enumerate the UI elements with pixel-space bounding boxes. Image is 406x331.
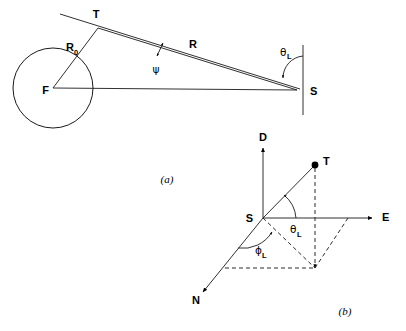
dashed-ground-projection (263, 218, 315, 268)
label-theta-l-panel-b-main: θ (290, 223, 296, 235)
label-axis-d: D (259, 131, 267, 143)
panel-b-caption: (b) (339, 305, 352, 318)
label-tangent-point-t: T (93, 8, 100, 20)
label-phi-l-panel-b: ϕ L (255, 244, 267, 260)
figure-root: T F S R 0 R ψ θ L (a) (0, 0, 406, 331)
dashed-east-component (315, 218, 348, 268)
label-phi-l-panel-b-main: ϕ (255, 244, 262, 256)
label-target-t: T (323, 155, 330, 167)
label-range-r: R (189, 38, 197, 50)
label-theta-l-panel-a-main: θ (280, 46, 286, 58)
geometry-figure: T F S R 0 R ψ θ L (a) (0, 0, 406, 331)
label-station-s: S (310, 85, 317, 97)
label-origin-s: S (246, 212, 253, 224)
label-theta-l-panel-a-subscript: L (287, 52, 292, 61)
label-center-f: F (42, 84, 49, 96)
theta-l-arc-panel-b (284, 195, 296, 218)
panel-a-group: T F S R 0 R ψ θ L (a) (13, 8, 317, 186)
label-theta-l-panel-b-subscript: L (297, 230, 302, 239)
line-of-sight-s-to-t (263, 165, 315, 218)
label-psi-angle: ψ (153, 63, 160, 75)
label-axis-n: N (192, 294, 200, 306)
panel-b-group: D E N S T θ L ϕ L (b) (192, 131, 389, 318)
axis-n-north (203, 218, 263, 292)
label-theta-l-panel-b: θ L (290, 223, 302, 239)
label-phi-l-panel-b-subscript: L (262, 251, 267, 260)
label-theta-l-panel-a: θ L (280, 46, 292, 61)
theta-l-arc-panel-a (283, 56, 303, 78)
label-radius-r0: R 0 (66, 41, 78, 57)
label-radius-r0-main: R (66, 41, 74, 53)
baseline-f-to-s (53, 88, 297, 90)
target-point-t (312, 162, 319, 169)
tangent-line (60, 14, 300, 89)
label-axis-e: E (382, 211, 389, 223)
panel-a-caption: (a) (161, 173, 174, 186)
label-radius-r0-subscript: 0 (74, 48, 78, 57)
radius-line-r0 (53, 28, 98, 88)
range-line-r (98, 28, 297, 90)
